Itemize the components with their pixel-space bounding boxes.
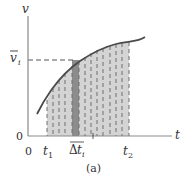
t2-label: t 2: [123, 144, 133, 160]
y-origin-label: 0: [16, 130, 23, 143]
svg-text:v: v: [10, 51, 17, 65]
x-origin-label: 0: [25, 145, 32, 158]
svg-text:1: 1: [48, 151, 53, 160]
velocity-time-diagram: v t 0 0 v i t 1 Δ t i t 2 (a): [0, 0, 189, 181]
svg-text:i: i: [18, 58, 21, 67]
delta-t-label: Δ t i: [69, 142, 85, 159]
x-axis-label: t: [175, 128, 180, 142]
y-axis-label: v: [22, 2, 29, 16]
figure-caption: (a): [86, 162, 101, 175]
mean-value-label: v i: [10, 51, 21, 67]
t1-label: t 1: [43, 144, 53, 160]
highlighted-strip: [72, 60, 79, 136]
svg-text:i: i: [82, 150, 85, 159]
svg-text:2: 2: [128, 151, 133, 160]
